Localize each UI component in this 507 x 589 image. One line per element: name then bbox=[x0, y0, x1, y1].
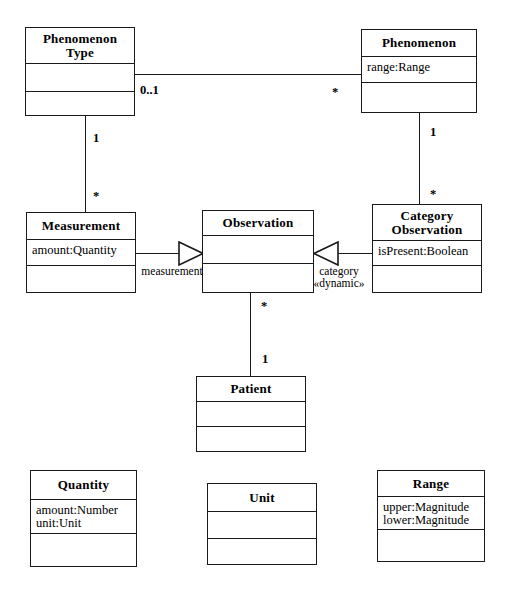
class-name-unit: Unit bbox=[208, 484, 316, 512]
class-name-patient: Patient bbox=[197, 377, 305, 402]
class-name-measurement: Measurement bbox=[27, 213, 135, 240]
generalization-arrow-measurement-icon bbox=[178, 241, 204, 266]
class-box-quantity[interactable]: Quantity amount:Number unit:Unit bbox=[30, 470, 137, 567]
uml-class-diagram: 0..1 * 1 * 1 * * 1 measurement category … bbox=[0, 0, 507, 589]
class-name-category-observation: Category Observation bbox=[373, 205, 481, 241]
class-attributes-patient bbox=[197, 402, 305, 427]
edge-phenomenontype-phenomenon bbox=[134, 74, 362, 75]
role-label-measurement: measurement bbox=[136, 265, 208, 277]
class-attributes-phenomenon: range:Range bbox=[362, 57, 476, 83]
edge-phenomenontype-measurement bbox=[85, 115, 86, 212]
class-name-phenomenon: Phenomenon bbox=[362, 30, 476, 57]
multiplicity-phenomenon-categoryobservation-far: * bbox=[430, 188, 436, 200]
class-operations-phenomenon-type bbox=[26, 92, 134, 115]
multiplicity-phenomenontype-phenomenon-far: * bbox=[332, 86, 338, 98]
multiplicity-observation-patient-far: 1 bbox=[262, 353, 268, 365]
class-box-patient[interactable]: Patient bbox=[196, 376, 306, 452]
class-attributes-category-observation: isPresent:Boolean bbox=[373, 241, 481, 266]
class-attributes-quantity: amount:Number unit:Unit bbox=[31, 500, 136, 534]
edge-measurement-observation bbox=[135, 253, 180, 254]
class-box-category-observation[interactable]: Category Observation isPresent:Boolean bbox=[372, 204, 482, 293]
multiplicity-observation-patient-near: * bbox=[261, 300, 267, 312]
multiplicity-phenomenontype-phenomenon-near: 0..1 bbox=[140, 84, 159, 96]
role-label-category: category «dynamic» bbox=[302, 265, 376, 289]
class-operations-category-observation bbox=[373, 266, 481, 292]
class-name-phenomenon-type: Phenomenon Type bbox=[26, 28, 134, 64]
class-operations-observation bbox=[203, 264, 313, 292]
multiplicity-phenomenontype-measurement-near: 1 bbox=[93, 132, 99, 144]
class-operations-unit bbox=[208, 539, 316, 564]
class-name-observation: Observation bbox=[203, 211, 313, 236]
class-operations-quantity bbox=[31, 534, 136, 566]
class-box-phenomenon-type[interactable]: Phenomenon Type bbox=[25, 27, 135, 116]
class-operations-phenomenon bbox=[362, 83, 476, 112]
class-name-range: Range bbox=[378, 471, 484, 497]
generalization-arrow-category-icon bbox=[313, 241, 339, 266]
class-attributes-unit bbox=[208, 512, 316, 539]
class-attributes-phenomenon-type bbox=[26, 64, 134, 92]
multiplicity-phenomenon-categoryobservation-near: 1 bbox=[430, 126, 436, 138]
class-box-observation[interactable]: Observation bbox=[202, 210, 314, 293]
class-operations-measurement bbox=[27, 266, 135, 292]
class-operations-patient bbox=[197, 427, 305, 451]
class-box-measurement[interactable]: Measurement amount:Quantity bbox=[26, 212, 136, 293]
class-name-quantity: Quantity bbox=[31, 471, 136, 500]
multiplicity-phenomenontype-measurement-far: * bbox=[93, 190, 99, 202]
class-operations-range bbox=[378, 530, 484, 561]
class-attributes-range: upper:Magnitude lower:Magnitude bbox=[378, 497, 484, 530]
class-attributes-observation bbox=[203, 236, 313, 264]
edge-phenomenon-categoryobservation bbox=[419, 112, 420, 205]
class-box-range[interactable]: Range upper:Magnitude lower:Magnitude bbox=[377, 470, 485, 562]
class-box-phenomenon[interactable]: Phenomenon range:Range bbox=[361, 29, 477, 113]
class-attributes-measurement: amount:Quantity bbox=[27, 240, 135, 266]
class-box-unit[interactable]: Unit bbox=[207, 483, 317, 565]
edge-observation-patient bbox=[250, 292, 251, 376]
